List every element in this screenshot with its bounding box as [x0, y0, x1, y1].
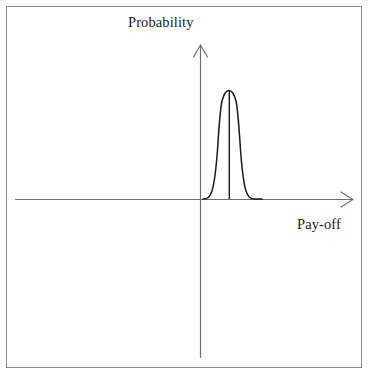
chart-plot-area	[0, 0, 371, 377]
y-axis-label: Probability	[128, 14, 194, 31]
x-axis-label: Pay-off	[297, 216, 341, 233]
figure-container: Probability Pay-off	[0, 0, 371, 377]
probability-density-curve	[203, 91, 262, 200]
